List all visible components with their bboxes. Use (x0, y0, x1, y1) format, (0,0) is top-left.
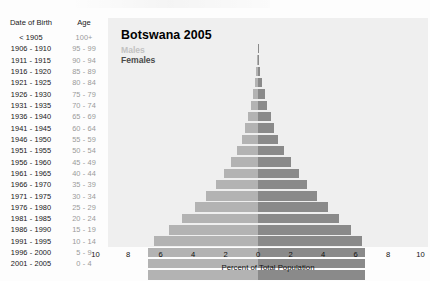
age-group-cell: 65 - 69 (62, 112, 106, 121)
bar-males (169, 225, 258, 234)
pyramid-row (108, 55, 428, 64)
pyramid-row (108, 146, 428, 155)
age-label-row: 1911 - 191590 - 94 (0, 55, 108, 66)
x-axis-ticks: 1086420246810 (108, 250, 428, 261)
age-group-cell: 55 - 59 (62, 135, 106, 144)
label-table-header: Date of Birth Age (0, 18, 108, 32)
age-label-row: 1921 - 192580 - 84 (0, 77, 108, 88)
date-of-birth-cell: 1936 - 1940 (0, 112, 62, 121)
pyramid-row (108, 202, 428, 211)
bar-females (258, 135, 278, 144)
age-group-cell: 0 - 4 (62, 259, 106, 268)
age-label-row: 1946 - 195055 - 59 (0, 134, 108, 145)
date-of-birth-cell: 1996 - 2000 (0, 248, 62, 257)
date-of-birth-cell: 1951 - 1955 (0, 146, 62, 155)
column-header-date-of-birth: Date of Birth (0, 18, 62, 27)
age-label-row: 1956 - 196045 - 49 (0, 156, 108, 167)
pyramid-row (108, 101, 428, 110)
bar-females (258, 146, 284, 155)
bar-males (154, 236, 258, 245)
bar-females (258, 67, 260, 76)
age-label-row: 1961 - 196540 - 44 (0, 168, 108, 179)
bar-females (258, 225, 351, 234)
date-of-birth-cell: 2001 - 2005 (0, 259, 62, 268)
bar-males (224, 169, 258, 178)
age-group-cell: 80 - 84 (62, 78, 106, 87)
bar-males (242, 135, 258, 144)
age-group-cell: 95 - 99 (62, 44, 106, 53)
pyramid-row (108, 89, 428, 98)
bar-females (258, 78, 262, 87)
x-tick-label: 8 (126, 250, 130, 259)
age-label-table: Date of Birth Age < 1905100+1906 - 19109… (0, 18, 108, 270)
age-label-row: < 1905100+ (0, 32, 108, 43)
age-group-cell: 100+ (62, 33, 106, 42)
pyramid-row (108, 225, 428, 234)
pyramid-row (108, 157, 428, 166)
age-group-cell: 20 - 24 (62, 214, 106, 223)
bar-females (258, 44, 259, 53)
bar-males (237, 146, 258, 155)
bar-males (195, 202, 258, 211)
date-of-birth-cell: 1966 - 1970 (0, 180, 62, 189)
date-of-birth-cell: 1931 - 1935 (0, 101, 62, 110)
x-tick-label: 4 (321, 250, 325, 259)
pyramid-bars (108, 18, 428, 247)
age-group-cell: 45 - 49 (62, 158, 106, 167)
bar-females (258, 191, 317, 200)
age-label-row: 1986 - 199015 - 19 (0, 224, 108, 235)
age-group-cell: 50 - 54 (62, 146, 106, 155)
bar-females (258, 202, 328, 211)
age-label-row: 1936 - 194065 - 69 (0, 111, 108, 122)
age-label-row: 1931 - 193570 - 74 (0, 100, 108, 111)
x-tick-label: 6 (353, 250, 357, 259)
bar-males (206, 191, 258, 200)
chart-panel: Botswana 2005 Males Females (108, 18, 428, 247)
bar-females (258, 236, 362, 245)
date-of-birth-cell: 1906 - 1910 (0, 44, 62, 53)
pyramid-row (108, 78, 428, 87)
pyramid-row (108, 180, 428, 189)
date-of-birth-cell: 1926 - 1930 (0, 90, 62, 99)
age-label-row: 1981 - 198520 - 24 (0, 213, 108, 224)
date-of-birth-cell: 1981 - 1985 (0, 214, 62, 223)
date-of-birth-cell: 1986 - 1990 (0, 225, 62, 234)
age-group-cell: 15 - 19 (62, 225, 106, 234)
age-label-row: 1916 - 192085 - 89 (0, 66, 108, 77)
date-of-birth-cell: 1911 - 1915 (0, 56, 62, 65)
bar-females (258, 214, 339, 223)
scan-artifact (70, 0, 270, 8)
bar-males (216, 180, 258, 189)
age-label-row: 1906 - 191095 - 99 (0, 43, 108, 54)
population-pyramid-figure: Date of Birth Age < 1905100+1906 - 19109… (0, 0, 430, 281)
pyramid-row (108, 236, 428, 245)
x-tick-label: 0 (256, 250, 260, 259)
bar-females (258, 112, 271, 121)
date-of-birth-cell: 1971 - 1975 (0, 192, 62, 201)
age-group-cell: 70 - 74 (62, 101, 106, 110)
age-label-row: 1991 - 199510 - 14 (0, 236, 108, 247)
bar-males (248, 112, 258, 121)
x-tick-label: 10 (91, 250, 99, 259)
age-label-row: 1966 - 197035 - 39 (0, 179, 108, 190)
pyramid-row (108, 123, 428, 132)
bar-females (258, 180, 307, 189)
date-of-birth-cell: 1991 - 1995 (0, 237, 62, 246)
date-of-birth-cell: 1956 - 1960 (0, 158, 62, 167)
pyramid-row (108, 67, 428, 76)
age-group-cell: 75 - 79 (62, 90, 106, 99)
age-label-row: 1951 - 195550 - 54 (0, 145, 108, 156)
date-of-birth-cell: 1946 - 1950 (0, 135, 62, 144)
x-axis: 1086420246810 Percent of Total Populatio… (108, 247, 428, 281)
pyramid-row (108, 112, 428, 121)
pyramid-row (108, 44, 428, 53)
bar-males (182, 214, 258, 223)
x-tick-label: 10 (416, 250, 424, 259)
x-tick-label: 4 (191, 250, 195, 259)
age-label-row: 1926 - 193075 - 79 (0, 89, 108, 100)
pyramid-row (108, 191, 428, 200)
date-of-birth-cell: < 1905 (0, 33, 62, 42)
date-of-birth-cell: 1916 - 1920 (0, 67, 62, 76)
x-axis-label: Percent of Total Population (108, 263, 428, 272)
bar-females (258, 55, 259, 64)
